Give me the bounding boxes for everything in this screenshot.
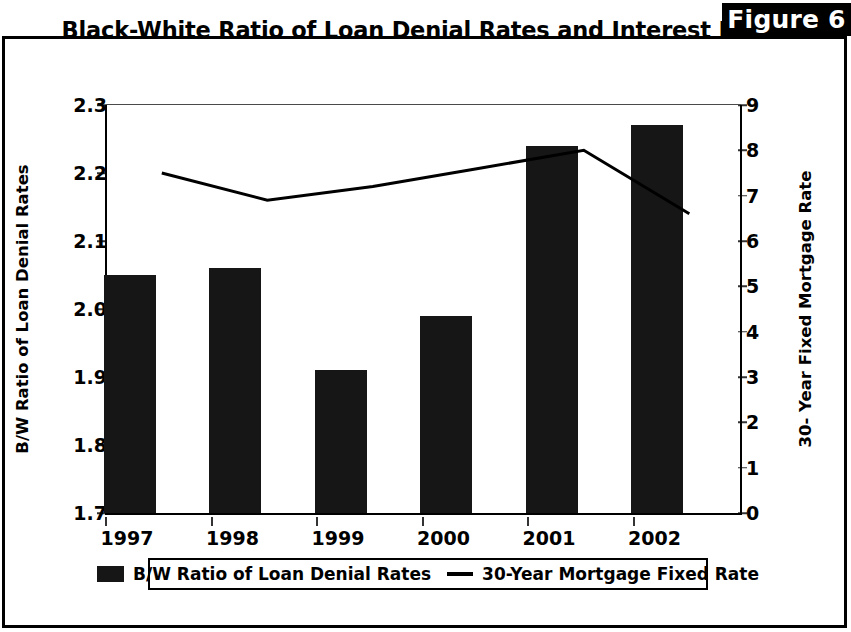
y-axis-right-tick-label: 3	[746, 366, 759, 388]
x-axis-tick-label: 2002	[628, 527, 681, 549]
y-axis-right-tick-label: 0	[746, 502, 759, 524]
y-axis-left-tick-label: 1.9	[73, 366, 107, 388]
y-axis-left-title: B/W Ratio of Loan Denial Rates	[13, 164, 32, 453]
y-axis-right-title: 30- Year Fixed Mortgage Rate	[796, 171, 815, 448]
y-axis-right-tick-label: 1	[746, 457, 759, 479]
y-axis-right-tick-label: 7	[746, 185, 759, 207]
x-axis-tick-label: 1998	[206, 527, 259, 549]
x-axis-tick-label: 1997	[101, 527, 154, 549]
legend-line-swatch	[447, 572, 473, 576]
mortgage-rate-line	[162, 150, 690, 214]
x-axis-tick-label: 2001	[523, 527, 576, 549]
y-axis-left-tick-label: 1.7	[73, 502, 107, 524]
y-axis-right-tick-label: 6	[746, 230, 759, 252]
y-axis-left-tick-label: 2.1	[73, 230, 107, 252]
y-axis-right-tick-label: 2	[746, 411, 759, 433]
legend-bar-swatch	[97, 566, 124, 582]
y-axis-left-tick-label: 2.0	[73, 298, 107, 320]
plot-area	[105, 105, 742, 515]
y-axis-left-tick-label: 2.2	[73, 162, 107, 184]
y-axis-right-tick-label: 4	[746, 321, 759, 343]
x-axis-tick	[211, 517, 213, 526]
y-axis-left-tick-label: 1.8	[73, 434, 107, 456]
chart-legend: B/W Ratio of Loan Denial Rates 30-Year M…	[148, 558, 708, 590]
legend-item-line: 30-Year Mortgage Fixed Rate	[447, 564, 759, 584]
figure-number-badge: Figure 6	[722, 3, 851, 36]
x-axis-tick	[422, 517, 424, 526]
y-axis-right-tick-label: 8	[746, 139, 759, 161]
legend-bar-label: B/W Ratio of Loan Denial Rates	[133, 564, 431, 584]
x-axis-tick	[105, 517, 107, 526]
x-axis-tick	[633, 517, 635, 526]
x-axis-tick-label: 1999	[312, 527, 365, 549]
y-axis-right-tick-label: 9	[746, 94, 759, 116]
x-axis-tick-label: 2000	[417, 527, 470, 549]
line-series-layer	[107, 105, 740, 513]
x-axis-tick	[316, 517, 318, 526]
x-axis-tick	[527, 517, 529, 526]
legend-line-label: 30-Year Mortgage Fixed Rate	[482, 564, 759, 584]
y-axis-right-tick-label: 5	[746, 275, 759, 297]
legend-item-bar: B/W Ratio of Loan Denial Rates	[97, 564, 431, 584]
y-axis-left-tick-label: 2.3	[73, 94, 107, 116]
